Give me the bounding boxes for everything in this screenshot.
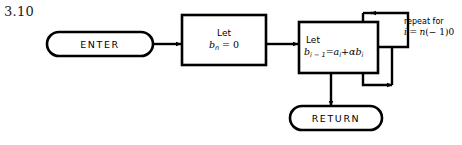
repeat-range: (− 1)0 bbox=[425, 27, 454, 37]
repeat-for-line2: i = n(− 1)0 bbox=[404, 27, 454, 38]
init-process-shape bbox=[182, 15, 266, 65]
enter-terminator-shape bbox=[47, 32, 153, 56]
flowchart-figure: 3.10 ENTER Let bn bbox=[0, 0, 462, 145]
flowchart-canvas bbox=[0, 0, 462, 145]
return-terminator-shape bbox=[290, 106, 382, 130]
inner-loop-connector bbox=[363, 73, 392, 85]
repeat-for-annotation: repeat for i = n(− 1)0 bbox=[404, 16, 454, 38]
repeat-for-line1: repeat for bbox=[404, 16, 454, 27]
accumulate-process-shape bbox=[299, 22, 378, 73]
repeat-index-var: i bbox=[404, 27, 407, 37]
repeat-equals: = bbox=[409, 27, 417, 37]
